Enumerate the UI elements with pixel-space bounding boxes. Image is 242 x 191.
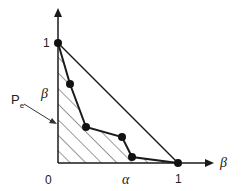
origin-label: 0 xyxy=(45,174,52,186)
x-axis-label: β xyxy=(220,156,227,170)
x-axis-arrow-icon xyxy=(205,159,214,167)
pe-pointer-line xyxy=(24,104,53,122)
alpha-label: α xyxy=(122,173,129,187)
x-tick-label: 1 xyxy=(175,173,182,185)
beta-side-label: β xyxy=(41,87,48,101)
pe-label-sub: e xyxy=(20,101,24,110)
diagram-svg xyxy=(0,0,242,191)
pe-label: Pe xyxy=(11,93,24,110)
y-axis-arrow-icon xyxy=(54,8,62,17)
pe-label-main: P xyxy=(11,92,20,107)
roc-diagram: 1 β Pe 0 α 1 β xyxy=(0,0,242,191)
y-tick-label: 1 xyxy=(43,37,50,49)
pe-pointer-arrow-icon xyxy=(49,118,57,124)
